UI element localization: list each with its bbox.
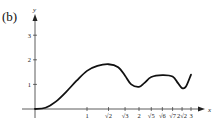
x-tick-label: √3 xyxy=(122,112,129,119)
x-tick-label: √2 xyxy=(105,112,112,119)
curve-line xyxy=(35,64,191,109)
y-axis-arrow-icon xyxy=(33,14,38,21)
y-tick-label: 3 xyxy=(28,32,31,39)
x-axis-arrow-icon xyxy=(198,107,205,112)
y-tick-label: 1 xyxy=(28,81,31,88)
x-tick-label: √7 xyxy=(169,112,177,119)
x-tick-label: 3 xyxy=(189,112,192,119)
function-plot: xy 1√2√32√5√6√72√23123 xyxy=(0,0,218,125)
x-tick-label: 1 xyxy=(85,112,88,119)
y-axis-label: y xyxy=(32,6,37,14)
x-tick-label: 2 xyxy=(137,112,140,119)
x-tick-label: 2√2 xyxy=(177,112,187,119)
x-tick-label: √6 xyxy=(159,112,167,119)
axes: xy xyxy=(22,6,212,118)
y-tick-label: 2 xyxy=(28,56,31,63)
x-axis-label: x xyxy=(207,106,212,114)
x-tick-label: √5 xyxy=(148,112,155,119)
